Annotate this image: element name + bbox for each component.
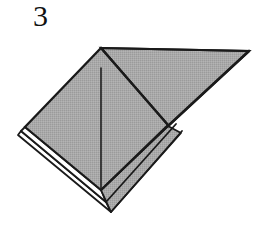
origami-diagram [0,0,266,225]
origami-step-figure: 3 [0,0,266,225]
